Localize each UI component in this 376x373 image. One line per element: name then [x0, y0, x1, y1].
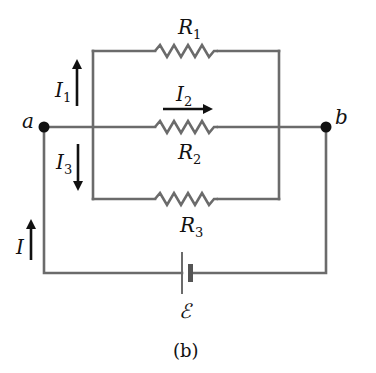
arrow-i-icon — [26, 219, 36, 260]
label-emf: ℰ — [179, 299, 193, 323]
label-i1: I1 — [54, 78, 71, 105]
label-i2: I2 — [175, 82, 192, 109]
resistor-r1 — [155, 45, 218, 57]
arrow-i1-icon — [72, 59, 82, 106]
arrow-i3-icon — [73, 144, 83, 191]
node-a — [39, 122, 50, 133]
label-node-b: b — [335, 105, 348, 129]
label-r1: R1 — [177, 15, 201, 42]
label-i: I — [15, 235, 25, 259]
figure-caption: (b) — [173, 340, 199, 361]
branch-r3 — [93, 193, 279, 205]
node-b — [321, 122, 332, 133]
label-r3: R3 — [179, 213, 203, 240]
battery-emf — [182, 252, 193, 294]
branch-r1 — [93, 45, 279, 57]
resistor-r2 — [155, 121, 218, 133]
resistor-r3 — [155, 193, 218, 205]
circuit-diagram: R1 I2 R2 R3 I1 I3 I a b ℰ (b) — [0, 0, 376, 373]
label-r2: R2 — [177, 140, 201, 167]
label-i3: I3 — [55, 150, 72, 177]
branch-r2 — [44, 121, 326, 133]
label-node-a: a — [22, 109, 34, 133]
